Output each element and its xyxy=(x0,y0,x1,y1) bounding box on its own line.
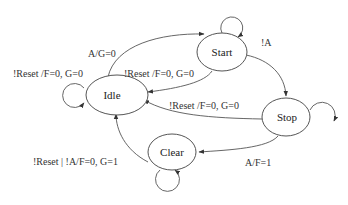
edge-start-to-stop xyxy=(246,55,286,96)
edge-stop-self xyxy=(310,102,335,121)
label-start-to-idle: !Reset /F=0, G=0 xyxy=(124,68,194,79)
state-idle-label: Idle xyxy=(103,89,120,101)
state-diagram: Idle Start Stop Clear !Reset /F=0, G=0 A… xyxy=(0,0,348,205)
edge-clear-self xyxy=(156,170,180,191)
edge-stop-to-clear xyxy=(199,136,278,152)
label-stop-to-clear: A/F=1 xyxy=(245,157,271,168)
state-start-label: Start xyxy=(212,46,233,58)
state-clear-label: Clear xyxy=(160,146,184,158)
label-idle-self: !Reset /F=0, G=0 xyxy=(13,68,83,79)
state-idle[interactable]: Idle xyxy=(86,75,148,115)
edge-idle-self xyxy=(63,84,84,108)
label-clear-to-idle: !Reset | !A/F=0, G=1 xyxy=(33,156,118,167)
state-stop[interactable]: Stop xyxy=(262,98,310,136)
state-stop-label: Stop xyxy=(277,111,298,123)
state-clear[interactable]: Clear xyxy=(148,134,196,170)
label-start-to-stop: !A xyxy=(261,37,272,48)
state-start[interactable]: Start xyxy=(197,33,247,71)
label-stop-to-idle: !Reset /F=0, G=0 xyxy=(169,100,239,111)
label-idle-to-start: A/G=0 xyxy=(88,48,116,59)
edge-clear-to-idle xyxy=(116,114,148,162)
